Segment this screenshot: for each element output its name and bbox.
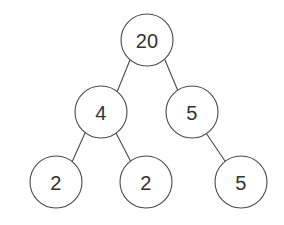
binary-tree-diagram: 2045225 bbox=[0, 0, 284, 225]
tree-canvas: 2045225 bbox=[0, 0, 284, 225]
tree-edge bbox=[116, 133, 131, 162]
tree-edge bbox=[117, 60, 130, 92]
node-label: 20 bbox=[136, 30, 159, 52]
tree-node: 2 bbox=[120, 156, 172, 208]
tree-node: 2 bbox=[30, 156, 82, 208]
node-label: 2 bbox=[50, 172, 61, 194]
tree-edge bbox=[72, 133, 85, 162]
tree-edge bbox=[206, 133, 225, 161]
node-layer: 2045225 bbox=[30, 14, 267, 208]
tree-node: 4 bbox=[75, 86, 127, 138]
node-label: 4 bbox=[95, 102, 106, 124]
node-label: 5 bbox=[235, 172, 246, 194]
tree-node: 5 bbox=[166, 86, 218, 138]
tree-node: 5 bbox=[215, 156, 267, 208]
tree-edge bbox=[165, 60, 178, 91]
node-label: 2 bbox=[140, 172, 151, 194]
tree-node: 20 bbox=[121, 14, 173, 66]
node-label: 5 bbox=[186, 102, 197, 124]
